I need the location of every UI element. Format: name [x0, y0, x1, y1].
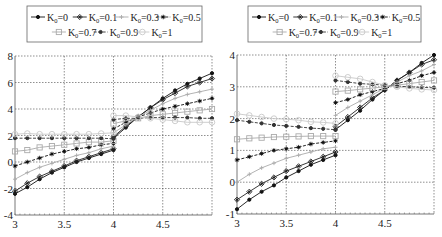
y-tick-label: 3: [230, 81, 236, 93]
data-point: [296, 164, 301, 169]
data-point: [419, 73, 424, 78]
x-tick-label: 4.5: [378, 217, 392, 229]
data-point: [359, 82, 362, 85]
data-point: [173, 96, 177, 100]
legend-marker: [99, 30, 102, 33]
legend-label: K0=0: [47, 12, 68, 25]
y-tick-label: 6: [8, 77, 14, 89]
data-point: [420, 69, 424, 73]
data-point: [407, 78, 412, 83]
data-point: [25, 181, 30, 186]
data-point: [297, 153, 301, 157]
data-point: [260, 190, 263, 193]
legend: K0=0K0=0.1K0=0.3K0=0.5K0=0.7K0=0.9K0=1: [27, 6, 202, 42]
data-point: [37, 156, 42, 161]
data-point: [321, 140, 326, 145]
data-point: [185, 92, 189, 96]
data-point: [271, 175, 276, 180]
legend: K0=0K0=0.1K0=0.3K0=0.5K0=0.7K0=0.9K0=1: [248, 6, 421, 42]
data-point: [358, 99, 362, 103]
data-point: [62, 157, 66, 161]
data-point: [26, 137, 29, 140]
figure: 33.544.5-4-202468K0=0K0=0.1K0=0.3K0=0.5K…: [0, 0, 442, 237]
data-point: [248, 120, 251, 123]
data-point: [50, 152, 55, 157]
legend-label: K0=1: [371, 27, 392, 40]
data-point: [272, 123, 275, 126]
data-point: [334, 145, 338, 149]
data-point: [100, 137, 103, 140]
data-point: [186, 116, 189, 119]
data-point: [247, 189, 252, 194]
y-tick-label: -4: [4, 209, 14, 221]
x-tick-label: 3: [12, 218, 18, 230]
data-point: [334, 128, 337, 131]
data-point: [13, 177, 17, 181]
data-point: [25, 171, 29, 175]
data-point: [260, 122, 263, 125]
data-point: [272, 148, 277, 153]
data-point: [160, 107, 165, 112]
data-point: [248, 198, 251, 201]
data-point: [333, 100, 338, 105]
data-point: [297, 125, 300, 128]
legend-label: K0=0.1: [89, 12, 118, 25]
legend-label: K0=0.9: [330, 27, 359, 40]
x-tick-label: 3.5: [279, 217, 293, 229]
y-tick-label: -1: [226, 208, 235, 220]
data-point: [235, 208, 238, 211]
data-point: [432, 53, 435, 56]
data-point: [346, 80, 349, 83]
data-point: [62, 149, 67, 154]
data-point: [370, 89, 375, 94]
data-point: [432, 63, 436, 67]
data-point: [210, 87, 214, 91]
data-point: [272, 161, 276, 165]
y-tick-label: 1: [230, 144, 236, 156]
data-point: [297, 169, 300, 172]
legend-marker: [36, 15, 39, 18]
data-point: [74, 146, 79, 151]
data-point: [185, 101, 190, 106]
data-point: [99, 147, 103, 151]
y-tick-label: 0: [8, 156, 14, 168]
legend-label: K0=0.3: [351, 12, 380, 25]
data-point: [285, 176, 288, 179]
data-point: [259, 151, 264, 156]
data-point: [346, 97, 351, 102]
legend-label: K0=0.3: [131, 12, 160, 25]
legend-label: K0=0.1: [309, 12, 338, 25]
legend-label: K0=0.7: [289, 27, 318, 40]
data-point: [197, 99, 202, 104]
legend-label: K0=0.5: [392, 12, 421, 25]
data-point: [38, 165, 42, 169]
legend-label: K0=0.9: [110, 27, 139, 40]
legend-label: K0=0: [268, 12, 289, 25]
data-point: [235, 119, 238, 122]
x-tick-label: 4: [111, 218, 117, 230]
legend-label: K0=1: [151, 27, 172, 40]
data-point: [333, 139, 338, 144]
data-point: [358, 92, 363, 97]
legend-label: K0=0.5: [172, 12, 201, 25]
legend-label: K0=0.7: [68, 27, 97, 40]
data-point: [432, 70, 437, 75]
y-tick-label: -2: [4, 183, 13, 195]
y-tick-label: 0: [230, 176, 236, 188]
data-point: [309, 127, 312, 130]
data-point: [87, 145, 92, 150]
x-tick-label: 3: [234, 217, 240, 229]
data-point: [161, 102, 165, 106]
data-point: [285, 124, 288, 127]
data-point: [25, 160, 30, 165]
legend-marker: [257, 15, 260, 18]
legend-marker: [319, 30, 322, 33]
data-point: [284, 156, 288, 160]
data-point: [210, 96, 215, 101]
y-tick-label: 4: [8, 103, 14, 115]
data-point: [173, 104, 178, 109]
data-point: [198, 90, 202, 94]
data-point: [50, 161, 54, 165]
right-chart-panel: 33.544.5-101234K0=0K0=0.1K0=0.3K0=0.5K0=…: [226, 6, 437, 229]
x-tick-label: 4.5: [156, 218, 170, 230]
